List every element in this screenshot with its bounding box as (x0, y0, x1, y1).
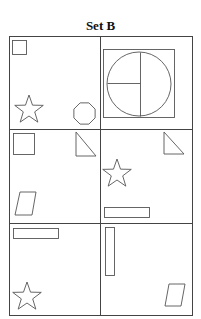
parallelogram-shape (15, 192, 36, 215)
cell-r0-c1 (104, 50, 175, 118)
star-shape (13, 282, 42, 309)
cell-r1-c1 (103, 132, 184, 218)
cell-r0-c0 (13, 41, 96, 125)
square-shape (13, 41, 27, 55)
rectangle-shape (106, 228, 115, 276)
cell-r2-c1 (106, 228, 186, 307)
grid-lines (9, 36, 193, 316)
shape-grid-figure (0, 0, 201, 319)
cell-r2-c0 (13, 229, 59, 310)
parallelogram-shape (165, 284, 185, 306)
circle-shape (107, 52, 171, 116)
shapes (13, 41, 186, 310)
right-triangle-shape (76, 132, 96, 156)
cell-r1-c0 (14, 132, 97, 215)
star-shape (15, 95, 44, 122)
rectangle-shape (105, 208, 150, 218)
octagon-shape (74, 103, 95, 124)
rectangle-shape (14, 229, 59, 239)
square-shape (14, 134, 35, 155)
star-shape (103, 159, 132, 186)
right-triangle-shape (164, 132, 184, 154)
